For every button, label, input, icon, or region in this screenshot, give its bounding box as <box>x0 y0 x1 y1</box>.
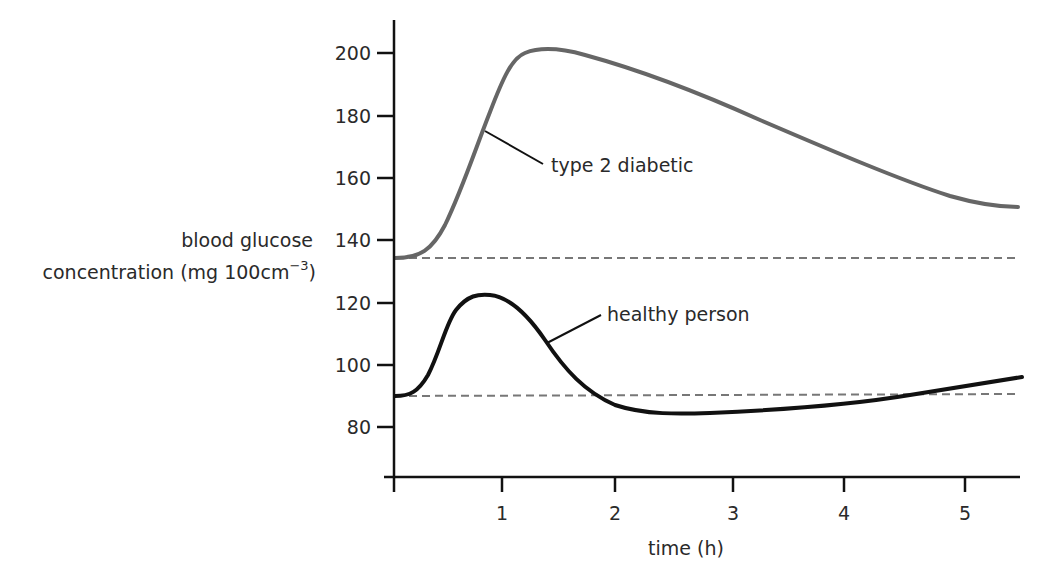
x-tick-label: 5 <box>959 502 971 524</box>
x-tick-label: 3 <box>727 502 739 524</box>
x-tick-label: 4 <box>838 502 850 524</box>
y-axis-title-line1: blood glucose <box>181 229 313 251</box>
y-tick-label: 140 <box>335 229 371 251</box>
x-tick-label: 1 <box>496 502 508 524</box>
reference-lines <box>396 258 1018 396</box>
y-axis-title-close: ) <box>309 261 316 283</box>
y-tick-label: 200 <box>335 42 371 64</box>
y-tick-label: 120 <box>335 292 371 314</box>
healthy-leader-line <box>547 315 601 343</box>
annotation-type2-diabetic: type 2 diabetic <box>551 154 694 176</box>
x-axis-title: time (h) <box>648 537 724 559</box>
y-axis: 200 180 160 140 120 100 80 <box>335 20 394 492</box>
annotation-healthy-person: healthy person <box>607 303 750 325</box>
diabetic-leader-line <box>485 131 543 164</box>
y-axis-title-unit: concentration (mg 100cm <box>43 261 290 283</box>
y-axis-title-line2: concentration (mg 100cm−3) <box>43 258 316 283</box>
series-type2-diabetic <box>395 49 1018 258</box>
y-tick-label: 80 <box>347 416 371 438</box>
y-tick-label: 180 <box>335 105 371 127</box>
line-chart: type 2 diabetic healthy person 200 180 1… <box>0 0 1047 587</box>
x-tick-label: 2 <box>609 502 621 524</box>
y-axis-title-exponent: −3 <box>289 258 308 273</box>
y-tick-label: 100 <box>335 354 371 376</box>
x-axis: 1 2 3 4 5 <box>384 477 1020 524</box>
y-tick-label: 160 <box>335 167 371 189</box>
